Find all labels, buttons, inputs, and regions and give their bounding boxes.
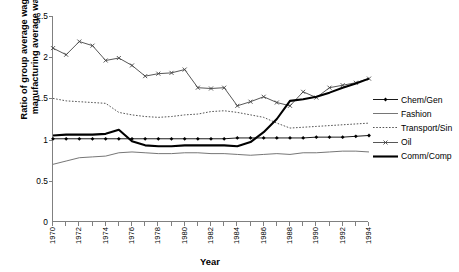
x-tick-mark xyxy=(92,222,93,226)
x-tick-mark xyxy=(157,222,158,226)
legend-label: Chem/Gen xyxy=(401,95,443,105)
x-tick-label: 1976 xyxy=(127,227,136,244)
x-tick-mark xyxy=(289,222,290,226)
legend-item-fashion[interactable]: Fashion xyxy=(372,108,452,119)
x-tick-mark xyxy=(78,222,79,226)
series-fashion xyxy=(53,151,369,164)
x-tick-mark xyxy=(368,222,369,226)
x-tick-mark xyxy=(210,222,211,226)
x-tick-label: 1994 xyxy=(364,227,373,244)
x-tick-mark xyxy=(52,222,53,226)
legend-swatch-x-icon xyxy=(372,137,399,148)
x-tick-label: 1984 xyxy=(232,227,241,244)
x-tick-mark xyxy=(263,222,264,226)
x-tick-mark xyxy=(197,222,198,226)
chart-figure: Ratio of group average wage to manufactu… xyxy=(0,0,459,272)
x-tick-mark xyxy=(276,222,277,226)
legend-swatch-diamond-icon xyxy=(372,94,399,105)
series-oil xyxy=(51,40,371,108)
x-tick-label: 1974 xyxy=(100,227,109,244)
x-tick-label: 1988 xyxy=(285,227,294,244)
legend-item-comm-comp[interactable]: Comm/Comp xyxy=(372,151,452,162)
y-axis-title-line-1: Ratio of group average wage to xyxy=(19,0,31,119)
legend-item-transport-sin[interactable]: Transport/Sin xyxy=(372,122,452,133)
x-tick-label: 1978 xyxy=(153,227,162,244)
x-tick-mark xyxy=(315,222,316,226)
series-transport-sin xyxy=(53,98,369,128)
legend-swatch-none-icon xyxy=(372,151,399,162)
x-tick-mark xyxy=(342,222,343,226)
y-axis-title: Ratio of group average wage to manufactu… xyxy=(17,0,43,155)
x-tick-mark xyxy=(131,222,132,226)
legend-swatch-none-icon xyxy=(372,122,399,133)
x-tick-mark xyxy=(302,222,303,226)
x-tick-label: 1990 xyxy=(311,227,320,244)
x-tick-mark xyxy=(355,222,356,226)
legend: Chem/GenFashionTransport/SinOilComm/Comp xyxy=(372,94,452,162)
x-tick-mark xyxy=(223,222,224,226)
x-tick-mark xyxy=(105,222,106,226)
x-tick-label: 1992 xyxy=(337,227,346,244)
x-tick-label: 1986 xyxy=(258,227,267,244)
x-tick-label: 1982 xyxy=(206,227,215,244)
plot-area xyxy=(52,16,368,222)
x-tick-mark xyxy=(65,222,66,226)
legend-label: Comm/Comp xyxy=(401,151,452,161)
legend-label: Fashion xyxy=(401,109,432,119)
legend-label: Transport/Sin xyxy=(401,123,452,133)
x-axis-title: Year xyxy=(52,256,368,267)
x-tick-mark xyxy=(236,222,237,226)
x-tick-label: 1970 xyxy=(48,227,57,244)
x-tick-mark xyxy=(144,222,145,226)
x-tick-label: 1972 xyxy=(74,227,83,244)
x-tick-mark xyxy=(184,222,185,226)
series-canvas xyxy=(53,16,369,222)
x-tick-mark xyxy=(118,222,119,226)
legend-item-chem-gen[interactable]: Chem/Gen xyxy=(372,94,452,105)
legend-swatch-none-icon xyxy=(372,108,399,119)
x-tick-mark xyxy=(329,222,330,226)
legend-item-oil[interactable]: Oil xyxy=(372,137,452,148)
x-tick-label: 1980 xyxy=(179,227,188,244)
legend-label: Oil xyxy=(401,137,412,147)
y-tick-label: 0 xyxy=(43,217,52,227)
x-tick-mark xyxy=(250,222,251,226)
x-tick-mark xyxy=(171,222,172,226)
